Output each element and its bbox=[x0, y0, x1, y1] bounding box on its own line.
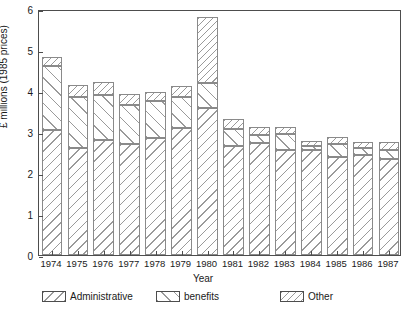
plot-area: 0123456 bbox=[38, 10, 401, 256]
bar-1985 bbox=[327, 9, 348, 255]
bars-container bbox=[39, 11, 400, 255]
y-tick-mark bbox=[39, 52, 43, 53]
bar-segment-benefits bbox=[249, 135, 270, 143]
y-tick-label: 2 bbox=[27, 170, 39, 180]
bar-segment-benefits bbox=[42, 66, 63, 130]
bar-segment-benefits bbox=[327, 144, 348, 156]
x-tick-label: 1985 bbox=[326, 259, 347, 269]
bar-segment-other bbox=[197, 17, 218, 83]
bar-segment-administrative bbox=[327, 157, 348, 255]
x-tick-mark bbox=[363, 251, 364, 255]
y-axis-label: £ millions (1985 prices) bbox=[0, 25, 9, 128]
x-tick-mark bbox=[156, 251, 157, 255]
bar-segment-benefits bbox=[197, 83, 218, 108]
y-tick-mark bbox=[39, 11, 43, 12]
x-tick-mark bbox=[285, 251, 286, 255]
x-tick-label: 1975 bbox=[66, 259, 87, 269]
y-tick-label: 4 bbox=[27, 88, 39, 98]
bar-segment-other bbox=[249, 127, 270, 135]
x-tick-mark bbox=[259, 251, 260, 255]
legend-label: Other bbox=[308, 291, 333, 302]
bar-segment-benefits bbox=[353, 148, 374, 154]
bar-segment-other bbox=[353, 142, 374, 148]
bar-1975 bbox=[68, 9, 89, 255]
bar-1979 bbox=[171, 9, 192, 255]
bar-segment-benefits bbox=[171, 97, 192, 128]
bar-segment-other bbox=[171, 86, 192, 97]
bar-1984 bbox=[301, 9, 322, 255]
x-tick-label: 1977 bbox=[118, 259, 139, 269]
x-tick-mark bbox=[389, 251, 390, 255]
legend-swatch-icon bbox=[280, 291, 304, 302]
bar-1987 bbox=[379, 9, 400, 255]
x-tick-label: 1986 bbox=[352, 259, 373, 269]
bar-1977 bbox=[119, 9, 140, 255]
bar-segment-administrative bbox=[145, 138, 166, 255]
y-tick-label: 1 bbox=[27, 211, 39, 221]
x-tick-label: 1976 bbox=[92, 259, 113, 269]
bar-segment-administrative bbox=[379, 159, 400, 255]
x-tick-mark bbox=[311, 251, 312, 255]
bar-segment-administrative bbox=[197, 108, 218, 255]
bar-segment-administrative bbox=[353, 155, 374, 255]
bar-1983 bbox=[275, 9, 296, 255]
x-tick-label: 1984 bbox=[300, 259, 321, 269]
legend-swatch-icon bbox=[42, 291, 66, 302]
y-tick-label: 6 bbox=[27, 6, 39, 16]
bar-1978 bbox=[145, 9, 166, 255]
y-tick-mark bbox=[39, 175, 43, 176]
y-tick-label: 0 bbox=[27, 252, 39, 262]
x-tick-mark bbox=[182, 251, 183, 255]
legend-item-other[interactable]: Other bbox=[280, 291, 333, 302]
bar-segment-benefits bbox=[93, 95, 114, 140]
x-tick-label: 1981 bbox=[222, 259, 243, 269]
bar-segment-benefits bbox=[145, 101, 166, 138]
legend-item-administrative[interactable]: Administrative bbox=[42, 291, 133, 302]
bar-segment-benefits bbox=[379, 150, 400, 159]
x-tick-label: 1979 bbox=[170, 259, 191, 269]
bar-segment-benefits bbox=[223, 129, 244, 146]
bar-segment-benefits bbox=[301, 146, 322, 151]
x-tick-label: 1974 bbox=[40, 259, 61, 269]
bar-segment-administrative bbox=[119, 144, 140, 255]
y-tick-label: 5 bbox=[27, 47, 39, 57]
bar-1982 bbox=[249, 9, 270, 255]
x-tick-mark bbox=[337, 251, 338, 255]
bar-segment-benefits bbox=[119, 105, 140, 144]
bar-segment-other bbox=[119, 94, 140, 105]
bar-segment-other bbox=[275, 127, 296, 134]
x-tick-mark bbox=[104, 251, 105, 255]
x-tick-mark bbox=[233, 251, 234, 255]
x-tick-label: 1982 bbox=[248, 259, 269, 269]
bar-segment-administrative bbox=[42, 130, 63, 255]
legend-label: Administrative bbox=[70, 291, 133, 302]
bar-segment-administrative bbox=[171, 128, 192, 255]
bar-segment-administrative bbox=[68, 148, 89, 255]
y-tick-mark bbox=[39, 134, 43, 135]
x-tick-label: 1983 bbox=[274, 259, 295, 269]
x-tick-label: 1980 bbox=[196, 259, 217, 269]
legend-swatch-icon bbox=[156, 291, 180, 302]
bar-segment-other bbox=[93, 82, 114, 96]
bar-segment-administrative bbox=[223, 146, 244, 255]
bar-segment-benefits bbox=[68, 97, 89, 148]
y-tick-mark bbox=[39, 216, 43, 217]
y-tick-label: 3 bbox=[27, 129, 39, 139]
bar-segment-administrative bbox=[93, 140, 114, 255]
x-tick-label: 1978 bbox=[144, 259, 165, 269]
x-tick-mark bbox=[52, 251, 53, 255]
chart-legend: AdministrativebenefitsOther bbox=[38, 289, 401, 309]
x-tick-label: 1987 bbox=[377, 259, 398, 269]
x-axis-label: Year bbox=[0, 273, 406, 284]
bar-segment-other bbox=[327, 137, 348, 144]
stacked-bar-chart-figure: £ millions (1985 prices) 0123456 1974197… bbox=[0, 0, 406, 316]
x-tick-mark bbox=[130, 251, 131, 255]
y-tick-mark bbox=[39, 93, 43, 94]
bar-1974 bbox=[42, 9, 63, 255]
bar-segment-other bbox=[68, 85, 89, 97]
legend-item-benefits[interactable]: benefits bbox=[156, 291, 219, 302]
bar-segment-administrative bbox=[249, 143, 270, 255]
bar-1976 bbox=[93, 9, 114, 255]
bar-segment-other bbox=[301, 141, 322, 146]
bar-segment-other bbox=[145, 92, 166, 101]
